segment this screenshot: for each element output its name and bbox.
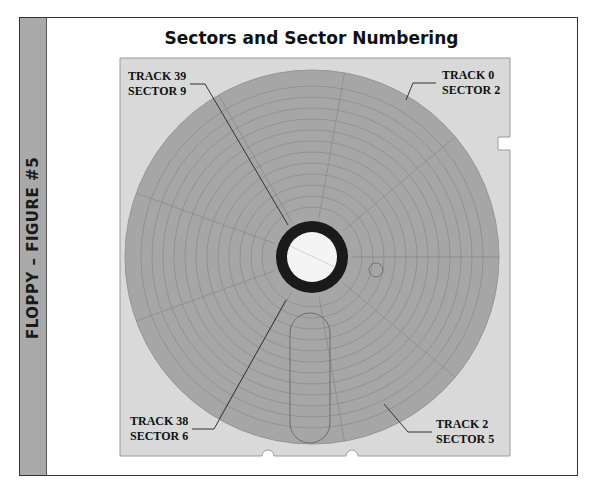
label-bottom-left-track: TRACK 38: [130, 414, 188, 428]
label-top-left-track: TRACK 39: [128, 69, 186, 83]
label-top-left-sector: SECTOR 9: [128, 84, 186, 98]
label-top-right-track: TRACK 0: [442, 68, 494, 82]
hub-hole: [287, 232, 337, 282]
label-bottom-right-sector: SECTOR 5: [436, 432, 494, 446]
label-bottom-left-sector: SECTOR 6: [130, 429, 188, 443]
label-top-right-sector: SECTOR 2: [442, 83, 500, 97]
floppy-disk-diagram: TRACK 39 SECTOR 9 TRACK 0 SECTOR 2 TRACK…: [0, 0, 600, 502]
label-bottom-right-track: TRACK 2: [436, 417, 488, 431]
